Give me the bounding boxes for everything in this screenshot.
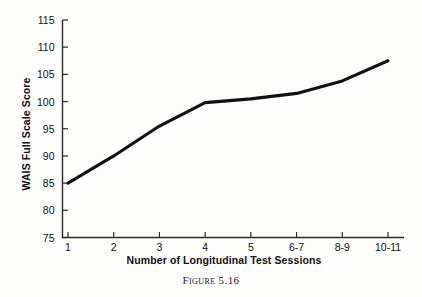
y-tick-label: 75 [43, 232, 55, 244]
x-tick-label: 5 [248, 241, 254, 253]
x-tick-label: 6-7 [289, 241, 304, 253]
chart-plot-area: 7580859095100105110115 123456-78-910-11 [0, 0, 422, 270]
y-tick-label: 105 [37, 68, 55, 80]
x-tick-label: 1 [65, 241, 71, 253]
x-axis-title: Number of Longitudinal Test Sessions [56, 254, 392, 266]
x-axis-tick-labels: 123456-78-910-11 [65, 241, 401, 253]
figure-caption: Figure 5.16 [0, 274, 422, 286]
x-tick-label: 4 [202, 241, 208, 253]
x-tick-label: 2 [111, 241, 117, 253]
axis-frame [63, 20, 405, 238]
y-tick-label: 90 [43, 150, 55, 162]
x-tick-label: 10-11 [375, 241, 401, 253]
y-axis-title: WAIS Full Scale Score [20, 44, 32, 224]
y-tick-label: 95 [43, 123, 55, 135]
y-tick-label: 85 [43, 177, 55, 189]
y-tick-label: 80 [43, 204, 55, 216]
y-tick-label: 115 [38, 14, 55, 26]
axis-tick-marks [63, 20, 389, 238]
data-series-line [68, 61, 388, 183]
x-tick-label: 3 [157, 241, 163, 253]
line-chart-svg: 7580859095100105110115 123456-78-910-11 [0, 0, 422, 270]
y-axis-tick-labels: 7580859095100105110115 [37, 14, 55, 244]
y-tick-label: 100 [37, 96, 55, 108]
y-tick-label: 110 [38, 41, 55, 53]
figure-container: 7580859095100105110115 123456-78-910-11 … [0, 0, 422, 297]
x-tick-label: 8-9 [335, 241, 350, 253]
